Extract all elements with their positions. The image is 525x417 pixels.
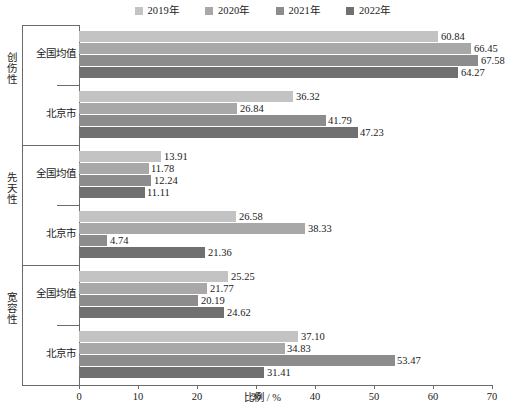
inner-category-label-3: 北京市 xyxy=(14,228,76,240)
bar-value-5-2021: 53.47 xyxy=(397,355,421,366)
bar-1-2020 xyxy=(79,103,237,114)
bar-2-2021 xyxy=(79,175,151,186)
inner-axis-tick-2 xyxy=(57,325,79,326)
legend-label-2019: 2019年 xyxy=(148,6,180,16)
inner-category-label-4: 全国均值 xyxy=(14,288,76,300)
bar-group-4: 25.25 21.77 20.19 24.62 xyxy=(79,271,492,319)
bar-value-1-2022: 47.23 xyxy=(360,127,384,138)
bar-3-2019 xyxy=(79,211,236,222)
bar-value-4-2022: 24.62 xyxy=(227,307,251,318)
legend-item-2021: 2021年 xyxy=(276,6,321,16)
bar-value-1-2019: 36.32 xyxy=(296,91,320,102)
inner-category-label-1: 北京市 xyxy=(14,108,76,120)
legend-swatch-2022-icon xyxy=(346,7,354,15)
bar-4-2020 xyxy=(79,283,207,294)
bar-group-2: 13.91 11.78 12.24 11.11 xyxy=(79,151,492,199)
x-tick-7 xyxy=(492,385,493,389)
bar-value-5-2020: 34.83 xyxy=(287,343,311,354)
bar-0-2020 xyxy=(79,43,471,54)
bar-chart: 2019年 2020年 2021年 2022年 创伤性 先天性 宽容性 全国均值… xyxy=(0,0,525,417)
bar-value-3-2021: 4.74 xyxy=(110,235,128,246)
bar-value-4-2021: 20.19 xyxy=(201,295,225,306)
bar-3-2022 xyxy=(79,247,205,258)
bar-2-2020 xyxy=(79,163,149,174)
bar-5-2021 xyxy=(79,355,395,366)
bar-value-0-2019: 60.84 xyxy=(441,31,465,42)
bar-value-0-2022: 64.27 xyxy=(461,67,485,78)
bar-value-3-2019: 26.58 xyxy=(239,211,263,222)
inner-category-label-2: 全国均值 xyxy=(14,168,76,180)
x-tick-0 xyxy=(79,385,80,389)
bar-value-2-2020: 11.78 xyxy=(151,163,174,174)
bar-5-2019 xyxy=(79,331,298,342)
x-tick-6 xyxy=(433,385,434,389)
bar-value-3-2020: 38.33 xyxy=(308,223,332,234)
legend-swatch-2019-icon xyxy=(135,7,143,15)
bar-5-2020 xyxy=(79,343,285,354)
x-tick-5 xyxy=(374,385,375,389)
inner-axis-tick-1 xyxy=(57,205,79,206)
bar-group-5: 37.10 34.83 53.47 31.41 xyxy=(79,331,492,379)
chart-legend: 2019年 2020年 2021年 2022年 xyxy=(0,6,525,16)
bar-value-2-2019: 13.91 xyxy=(164,151,188,162)
bar-value-2-2022: 11.11 xyxy=(147,187,170,198)
bar-1-2021 xyxy=(79,115,326,126)
x-axis-line xyxy=(79,385,492,386)
inner-axis-tick-0 xyxy=(57,85,79,86)
bar-group-1: 36.32 26.84 41.79 47.23 xyxy=(79,91,492,139)
outer-axis-tick-3 xyxy=(22,385,79,386)
inner-category-label-5: 北京市 xyxy=(14,348,76,360)
bar-value-2-2021: 12.24 xyxy=(154,175,178,186)
plot-area: 60.84 66.45 67.58 64.27 36.32 26.84 41.7… xyxy=(79,25,492,385)
outer-axis-tick-2 xyxy=(22,265,79,266)
bar-4-2019 xyxy=(79,271,228,282)
bar-3-2021 xyxy=(79,235,107,246)
x-tick-4 xyxy=(315,385,316,389)
bar-0-2021 xyxy=(79,55,478,66)
legend-label-2021: 2021年 xyxy=(289,6,321,16)
legend-swatch-2020-icon xyxy=(205,7,213,15)
bar-group-3: 26.58 38.33 4.74 21.36 xyxy=(79,211,492,259)
x-tick-3 xyxy=(256,385,257,389)
bar-1-2019 xyxy=(79,91,293,102)
bar-value-1-2020: 26.84 xyxy=(240,103,264,114)
legend-swatch-2021-icon xyxy=(276,7,284,15)
bar-0-2019 xyxy=(79,31,438,42)
inner-category-label-0: 全国均值 xyxy=(14,48,76,60)
bar-2-2022 xyxy=(79,187,145,198)
bar-1-2022 xyxy=(79,127,358,138)
bar-2-2019 xyxy=(79,151,161,162)
legend-item-2022: 2022年 xyxy=(346,6,391,16)
x-tick-1 xyxy=(138,385,139,389)
bar-value-0-2020: 66.45 xyxy=(474,43,498,54)
bar-0-2022 xyxy=(79,67,458,78)
outer-axis-tick-1 xyxy=(22,145,79,146)
bar-3-2020 xyxy=(79,223,305,234)
outer-axis-tick-0 xyxy=(22,25,79,26)
legend-item-2019: 2019年 xyxy=(135,6,180,16)
bar-5-2022 xyxy=(79,367,264,378)
bar-group-0: 60.84 66.45 67.58 64.27 xyxy=(79,31,492,79)
x-tick-2 xyxy=(197,385,198,389)
bar-4-2021 xyxy=(79,295,198,306)
legend-label-2020: 2020年 xyxy=(218,6,250,16)
bar-value-1-2021: 41.79 xyxy=(328,115,352,126)
bar-value-3-2022: 21.36 xyxy=(208,247,232,258)
bar-value-4-2020: 21.77 xyxy=(210,283,234,294)
outer-axis-line xyxy=(22,25,23,385)
bar-value-5-2022: 31.41 xyxy=(267,367,291,378)
bar-value-4-2019: 25.25 xyxy=(231,271,255,282)
x-axis-title: 比例 / % xyxy=(0,392,525,404)
bar-value-5-2019: 37.10 xyxy=(301,331,325,342)
bar-value-0-2021: 67.58 xyxy=(481,55,505,66)
bar-4-2022 xyxy=(79,307,224,318)
legend-item-2020: 2020年 xyxy=(205,6,250,16)
legend-label-2022: 2022年 xyxy=(359,6,391,16)
